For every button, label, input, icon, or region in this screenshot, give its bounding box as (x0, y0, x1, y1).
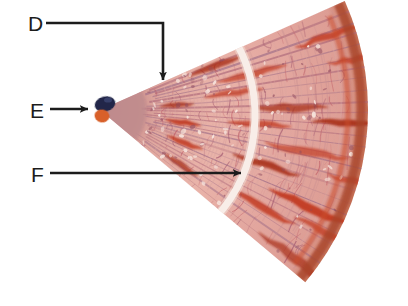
speckle (193, 155, 197, 158)
label-letter-e: E (30, 99, 44, 122)
label-letter-d: D (28, 12, 43, 35)
label-letter-f: F (31, 163, 44, 186)
figure-canvas: DEF (0, 0, 408, 306)
histology-figure: DEF (0, 0, 408, 306)
apex-navy-highlight (104, 97, 112, 102)
